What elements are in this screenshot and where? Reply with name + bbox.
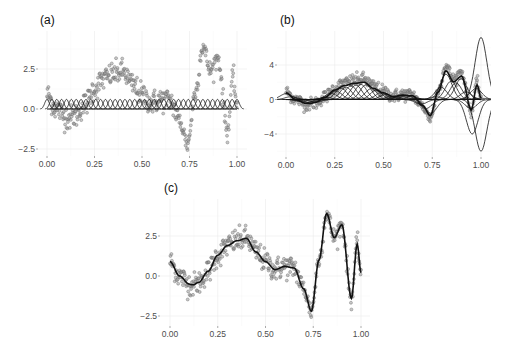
- figure: (a)0.000.250.500.751.00−2.50.02.5 (b)0.0…: [0, 0, 506, 349]
- x-tick-label: 0.75: [305, 329, 322, 339]
- panel-label: (a): [40, 13, 55, 27]
- x-tick-label: 1.00: [473, 160, 490, 170]
- panel-label: (b): [280, 13, 295, 27]
- x-tick-label: 1.00: [229, 159, 246, 169]
- y-tick-label: 2.5: [145, 231, 157, 241]
- y-tick-label: −4: [264, 129, 274, 139]
- x-tick-label: 0.75: [424, 160, 441, 170]
- y-tick-label: −2.5: [18, 144, 35, 154]
- x-tick-label: 0.25: [209, 329, 226, 339]
- panel-label: (c): [164, 181, 178, 195]
- panel-b: (b)0.000.250.500.751.00−404: [264, 13, 499, 170]
- y-tick-label: 0.0: [23, 104, 35, 114]
- x-tick-label: 0.00: [39, 159, 56, 169]
- x-tick-label: 0.50: [134, 159, 151, 169]
- x-tick-label: 1.00: [353, 329, 370, 339]
- x-tick-label: 0.75: [181, 159, 198, 169]
- y-tick-label: −2.5: [140, 311, 157, 321]
- panel-c: (c)0.000.250.500.751.00−2.50.02.5: [140, 181, 370, 339]
- y-tick-label: 0.0: [145, 271, 157, 281]
- x-tick-label: 0.25: [86, 159, 103, 169]
- y-tick-label: 2.5: [23, 64, 35, 74]
- panel-a: (a)0.000.250.500.751.00−2.50.02.5: [18, 13, 247, 169]
- x-tick-label: 0.50: [375, 160, 392, 170]
- plot-area: [160, 199, 370, 326]
- y-tick-label: 0: [269, 95, 274, 105]
- x-tick-label: 0.25: [326, 160, 343, 170]
- x-tick-label: 0.00: [162, 329, 179, 339]
- y-tick-label: 4: [269, 60, 274, 70]
- x-tick-label: 0.50: [257, 329, 274, 339]
- x-tick-label: 0.00: [278, 160, 295, 170]
